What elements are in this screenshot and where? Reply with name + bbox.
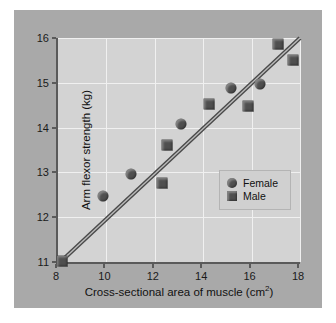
y-tick-label: 15 xyxy=(37,77,49,89)
data-point-female xyxy=(97,191,108,202)
data-point-male xyxy=(204,99,215,110)
y-tick-label: 11 xyxy=(38,256,49,268)
x-axis-title-paren: ) xyxy=(269,286,273,298)
x-tick-mark xyxy=(249,264,251,268)
figure-panel: Female Male Cross-sectional area of musc… xyxy=(14,10,322,308)
x-tick-label: 18 xyxy=(292,270,304,282)
y-tick-mark xyxy=(52,82,56,84)
legend-label-male: Male xyxy=(243,191,266,202)
data-point-male xyxy=(273,39,284,50)
x-tick-mark xyxy=(152,264,154,268)
y-tick-mark xyxy=(52,127,56,129)
data-point-female xyxy=(255,79,266,90)
x-tick-mark xyxy=(200,264,202,268)
y-axis-title: Arm flexor strength (kg) xyxy=(80,60,92,240)
data-point-female xyxy=(125,168,136,179)
x-tick-label: 12 xyxy=(147,270,159,282)
data-point-female xyxy=(176,119,187,130)
x-tick-label: 10 xyxy=(98,270,110,282)
x-axis-title: Cross-sectional area of muscle (cm2) xyxy=(58,284,300,298)
x-tick-mark xyxy=(297,264,299,268)
y-tick-mark xyxy=(52,216,56,218)
x-tick-label: 16 xyxy=(243,270,255,282)
y-tick-mark xyxy=(52,171,56,173)
square-marker-icon xyxy=(227,191,237,201)
data-point-male xyxy=(157,178,168,189)
x-axis-title-text: Cross-sectional area of muscle (cm xyxy=(85,286,265,298)
data-point-male xyxy=(242,101,253,112)
y-tick-label: 16 xyxy=(37,32,49,44)
x-tick-mark xyxy=(103,264,105,268)
data-point-male xyxy=(287,54,298,65)
y-tick-label: 12 xyxy=(37,211,49,223)
circle-marker-icon xyxy=(227,178,237,188)
y-tick-mark xyxy=(52,261,56,263)
data-point-male xyxy=(56,256,67,267)
x-tick-label: 8 xyxy=(53,270,59,282)
x-tick-label: 14 xyxy=(195,270,207,282)
y-tick-label: 13 xyxy=(37,166,49,178)
regression-line xyxy=(58,38,300,262)
gridline-vertical xyxy=(300,38,301,262)
data-point-male xyxy=(161,139,172,150)
y-tick-label: 14 xyxy=(37,122,49,134)
x-tick-mark xyxy=(55,264,57,268)
legend-item-female: Female xyxy=(227,178,284,189)
legend-label-female: Female xyxy=(243,178,278,189)
plot-area: Female Male Cross-sectional area of musc… xyxy=(56,38,300,264)
y-tick-mark xyxy=(52,37,56,39)
chart-legend: Female Male xyxy=(219,170,291,210)
data-point-female xyxy=(226,83,237,94)
legend-item-male: Male xyxy=(227,191,284,202)
